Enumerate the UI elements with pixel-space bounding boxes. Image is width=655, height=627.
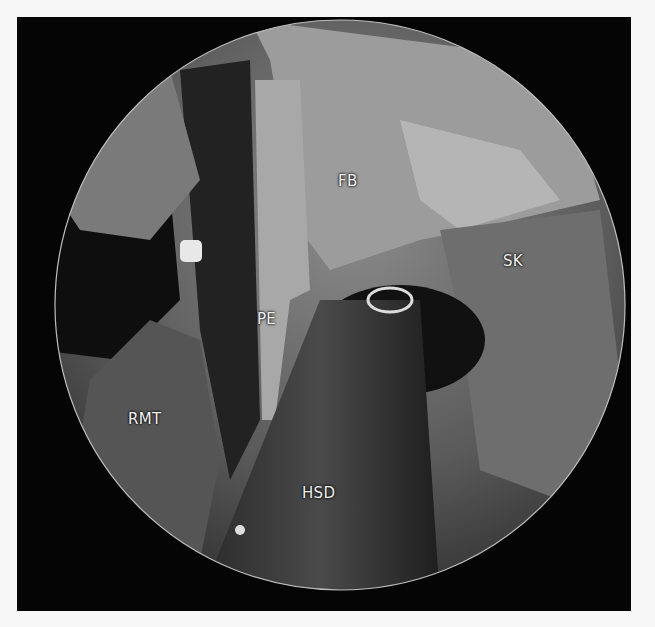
endoscopic-image-frame: FB SK PE RMT HSD (17, 17, 631, 611)
label-pe: PE (257, 310, 276, 328)
label-hsd: HSD (302, 484, 335, 502)
label-rmt: RMT (128, 410, 161, 428)
label-sk: SK (503, 252, 523, 270)
endoscopic-image (17, 17, 631, 611)
label-fb: FB (338, 172, 358, 190)
